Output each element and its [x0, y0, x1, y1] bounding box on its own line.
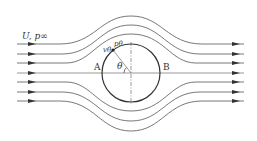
arrow-icon	[232, 61, 240, 65]
arrow-icon	[28, 99, 36, 103]
streamline-6	[17, 92, 244, 121]
arrow-icon	[28, 71, 36, 75]
arrow-icon	[28, 90, 36, 94]
streamline-5	[17, 82, 244, 111]
upstream-arrows	[28, 42, 36, 103]
streamline-3	[17, 34, 244, 63]
arrow-icon	[28, 80, 36, 84]
pressure-label: pθ	[114, 40, 123, 48]
surface-point	[111, 48, 114, 51]
streamline-2	[17, 25, 244, 54]
streamline-1	[17, 16, 244, 44]
arrow-icon	[232, 90, 240, 94]
point-b-label: B	[163, 62, 170, 72]
freestream-label: U, p∞	[22, 31, 48, 41]
downstream-arrows	[232, 42, 240, 103]
angle-arc	[124, 68, 127, 74]
arrow-icon	[232, 99, 240, 103]
arrow-icon	[232, 80, 240, 84]
point-a-label: A	[93, 62, 101, 72]
velocity-label: vθ	[103, 46, 112, 54]
arrow-icon	[232, 42, 240, 46]
arrow-icon	[28, 42, 36, 46]
streamline-7	[17, 101, 244, 131]
arrow-icon	[232, 52, 240, 56]
arrow-icon	[28, 61, 36, 65]
flow-diagram: U, p∞ A B θ vθ pθ	[0, 0, 257, 141]
angle-label: θ	[117, 61, 123, 71]
arrow-icon	[28, 52, 36, 56]
arrow-icon	[232, 71, 240, 75]
